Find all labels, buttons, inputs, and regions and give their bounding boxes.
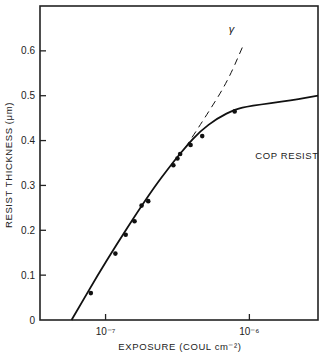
fit-curve	[72, 96, 318, 320]
data-point	[232, 109, 237, 114]
y-tick-label: 0.6	[21, 45, 35, 56]
data-points	[89, 109, 237, 295]
data-point	[132, 219, 137, 224]
resist-thickness-chart: 00.10.20.30.40.50.6 10⁻⁷10⁻⁶ RESIST THIC…	[0, 0, 324, 356]
x-tick-label: 10⁻⁷	[96, 326, 116, 337]
x-tick-label: 10⁻⁶	[239, 326, 259, 337]
data-point	[175, 156, 180, 161]
y-tick-label: 0.4	[21, 135, 35, 146]
data-point	[188, 143, 193, 148]
y-tick-label: 0.3	[21, 180, 35, 191]
data-point	[178, 152, 183, 157]
annotations: COP RESISTγ	[229, 23, 319, 161]
y-axis-label: RESIST THICKNESS (μm)	[3, 102, 14, 228]
y-axis-ticks: 00.10.20.30.40.50.6	[21, 45, 46, 325]
plot-curves	[72, 46, 318, 320]
data-point	[113, 251, 118, 256]
data-point	[123, 232, 128, 237]
gamma-slope-line	[186, 46, 243, 147]
data-point	[171, 163, 176, 168]
x-axis-label: EXPOSURE (COUL cm⁻²)	[118, 341, 241, 352]
data-point	[139, 203, 144, 208]
y-tick-label: 0.2	[21, 225, 35, 236]
x-axis-ticks: 10⁻⁷10⁻⁶	[96, 314, 260, 337]
data-point	[200, 134, 205, 139]
y-tick-label: 0	[29, 315, 35, 326]
y-tick-label: 0.1	[21, 270, 35, 281]
data-point	[146, 199, 151, 204]
cop-resist-label: COP RESIST	[255, 150, 318, 161]
data-point	[89, 291, 94, 296]
plot-frame	[40, 6, 318, 320]
y-tick-label: 0.5	[21, 90, 35, 101]
gamma-label: γ	[229, 23, 236, 35]
